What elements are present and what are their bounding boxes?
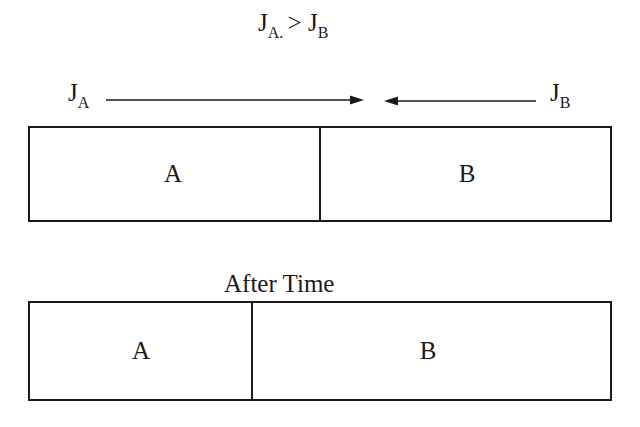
- interface-divider-shifted: [251, 303, 253, 399]
- region-b-label-after: B: [420, 337, 437, 365]
- arrow-right-icon: [106, 96, 364, 105]
- final-state-box: A B: [28, 301, 612, 401]
- initial-state-box: A B: [28, 126, 612, 222]
- interface-divider: [319, 128, 321, 220]
- region-b-label: B: [459, 160, 476, 188]
- flux-arrows: [0, 0, 640, 130]
- arrow-left-icon: [384, 97, 536, 106]
- after-time-caption: After Time: [224, 270, 334, 298]
- region-a-label-after: A: [132, 337, 150, 365]
- region-a-label: A: [164, 160, 182, 188]
